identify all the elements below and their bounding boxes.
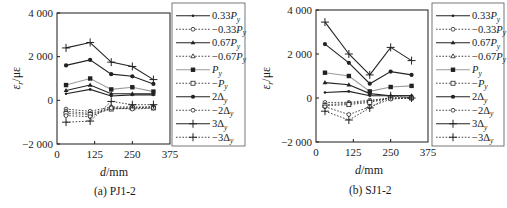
y-tick-label: 0 — [307, 92, 313, 104]
marker-filled-circle — [368, 82, 372, 86]
marker-filled-circle — [389, 70, 393, 74]
series-line — [325, 22, 412, 75]
marker-filled-circle — [191, 95, 195, 99]
marker-open-circle — [109, 106, 113, 110]
marker-open-circle — [64, 114, 68, 118]
series-neg2deltay — [64, 106, 155, 119]
marker-plus — [366, 104, 374, 112]
x-tick-label: 0 — [54, 148, 60, 160]
y-tick-label: 2 000 — [287, 48, 312, 60]
marker-filled-circle — [64, 63, 68, 67]
marker-filled-circle — [88, 58, 92, 62]
marker-square — [368, 89, 372, 93]
marker-dot — [89, 88, 92, 91]
marker-filled-circle — [323, 42, 327, 46]
marker-plus — [62, 44, 70, 52]
series-neg3deltay — [321, 92, 416, 124]
marker-square — [130, 85, 134, 89]
marker-plus — [62, 118, 70, 126]
x-tick-label: 250 — [382, 146, 399, 158]
chart-caption: (b) SJ1-2 — [349, 184, 392, 196]
y-tick-label: 4 000 — [28, 7, 53, 19]
y-label-sub: r — [16, 82, 25, 85]
y-tick-label: 4 000 — [287, 4, 312, 16]
marker-filled-circle — [451, 95, 455, 99]
marker-dot — [452, 14, 455, 17]
y-label-sub: r — [266, 82, 275, 85]
x-label-unit: /mm — [361, 163, 383, 177]
marker-square — [109, 87, 113, 91]
marker-open-square — [368, 100, 372, 104]
marker-square — [151, 89, 155, 93]
legend: 0.33Py−0.33Py0.67Py−0.67PyPy−Py2Δy−2Δy3Δ… — [432, 3, 507, 146]
marker-square — [191, 68, 195, 72]
marker-dot — [192, 14, 195, 17]
marker-plus — [387, 43, 395, 51]
x-axis-label: d/mm — [355, 163, 383, 178]
x-tick-label: 375 — [420, 146, 437, 158]
marker-open-square — [191, 81, 195, 85]
y-label-unit: /με — [259, 67, 273, 82]
marker-square — [323, 71, 327, 75]
x-axis-label: d/mm — [100, 165, 128, 180]
marker-filled-circle — [130, 74, 134, 78]
marker-square — [88, 76, 92, 80]
series-3deltay — [321, 18, 416, 79]
y-axis-label: εr/με — [9, 53, 25, 103]
marker-plus — [149, 101, 157, 109]
marker-plus — [345, 116, 353, 124]
y-tick-label: 0 — [48, 94, 54, 106]
chart-caption: (a) PJ1-2 — [94, 185, 136, 197]
marker-open-circle — [347, 113, 351, 117]
x-tick-label: 0 — [313, 146, 319, 158]
marker-open-circle — [191, 108, 195, 112]
y-tick-label: −2 000 — [22, 138, 53, 150]
marker-square — [409, 84, 413, 88]
y-tick-label: −2 000 — [281, 136, 312, 148]
x-label-unit: /mm — [106, 165, 128, 179]
marker-dot — [348, 90, 351, 93]
marker-filled-circle — [409, 73, 413, 77]
marker-open-circle — [191, 27, 195, 31]
y-axis-label: εr/με — [259, 53, 275, 103]
legend: 0.33Py−0.33Py0.67Py−0.67PyPy−Py2Δy−2Δy3Δ… — [172, 3, 247, 146]
series-line — [325, 44, 412, 84]
series-2deltay — [323, 42, 414, 86]
marker-plus — [149, 76, 157, 84]
x-tick-label: 375 — [162, 148, 179, 160]
series-line — [66, 101, 153, 122]
marker-plus — [408, 57, 416, 65]
marker-dot — [65, 92, 68, 95]
marker-open-square — [347, 103, 351, 107]
marker-open-circle — [451, 27, 455, 31]
marker-triangle — [323, 80, 328, 84]
marker-plus — [86, 117, 94, 125]
marker-filled-circle — [347, 61, 351, 65]
x-tick-label: 125 — [86, 148, 103, 160]
chart-panel-pj1-2: −2 00002 0004 00001252503750.33Py−0.33Py… — [0, 0, 252, 208]
marker-square — [347, 74, 351, 78]
series-3deltay — [62, 38, 157, 83]
y-label-var: ε — [9, 85, 23, 90]
marker-open-square — [451, 81, 455, 85]
marker-square — [388, 85, 392, 89]
y-label-unit: /με — [9, 67, 23, 82]
x-tick-label: 125 — [345, 146, 362, 158]
y-tick-label: 2 000 — [28, 50, 53, 62]
marker-square — [451, 68, 455, 72]
marker-plus — [128, 62, 136, 70]
marker-filled-circle — [109, 72, 113, 76]
marker-plus — [408, 94, 416, 102]
marker-plus — [387, 92, 395, 100]
marker-dot — [324, 91, 327, 94]
marker-open-circle — [451, 108, 455, 112]
marker-plus — [321, 107, 329, 115]
chart-panel-sj1-2: −2 00002 0004 00001252503750.33Py−0.33Py… — [255, 0, 507, 208]
marker-triangle — [88, 82, 93, 86]
x-tick-label: 250 — [124, 148, 141, 160]
y-label-var: ε — [259, 85, 273, 90]
marker-square — [64, 83, 68, 87]
marker-plus — [128, 101, 136, 109]
